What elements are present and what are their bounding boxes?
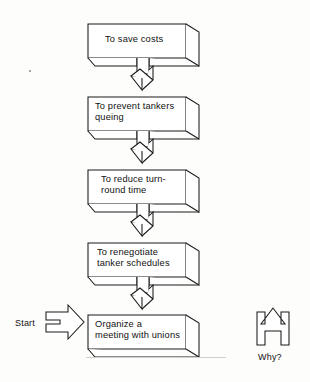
step-box-5-label: Organize ameeting with unions	[95, 319, 180, 342]
caption-rule	[86, 357, 226, 358]
step-box-2-label: To prevent tankersqueing	[95, 101, 174, 124]
step-box-5-line-1: Organize a	[95, 319, 142, 329]
step-box-4-line-2: tanker schedules	[97, 258, 170, 268]
why-arrow-icon	[257, 308, 289, 345]
step-box-4-label: To renegotiatetanker schedules	[97, 247, 170, 270]
step-box-5-line-2: meeting with unions	[95, 330, 180, 340]
step-box-3-label: To reduce turn-round time	[101, 174, 166, 197]
step-box-4-line-1: To renegotiate	[97, 247, 158, 257]
step-box-2-line-1: To prevent tankers	[95, 101, 174, 111]
start-label: Start	[15, 318, 35, 328]
step-box-3-line-2: round time	[101, 185, 146, 195]
step-box-2-line-2: queing	[95, 112, 124, 122]
step-box-3-line-1: To reduce turn-	[101, 174, 166, 184]
diagram-canvas: To save costs To prevent tankersqueing T…	[0, 0, 310, 382]
scan-speck	[29, 70, 31, 72]
why-label: Why?	[258, 352, 282, 362]
start-arrow-icon	[46, 305, 84, 339]
step-box-1-label: To save costs	[105, 34, 163, 45]
